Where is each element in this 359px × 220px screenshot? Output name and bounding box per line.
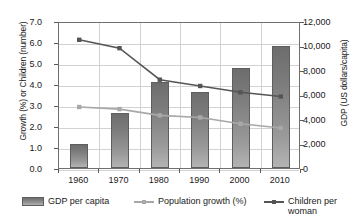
data-point-marker xyxy=(77,105,81,109)
y-axis-right-tickmark xyxy=(300,22,304,23)
data-point-marker xyxy=(198,115,202,119)
plot-area xyxy=(58,22,300,169)
line-marker-icon xyxy=(264,197,284,206)
y-axis-right-tickmark xyxy=(300,47,304,48)
x-axis-tickmark xyxy=(179,169,180,173)
legend-item-gdp-per-capita: GDP per capita xyxy=(22,196,109,206)
data-point-marker xyxy=(198,84,202,88)
line-children-per-woman xyxy=(79,40,281,97)
x-axis-tickmark xyxy=(139,169,140,173)
data-point-marker xyxy=(117,46,121,50)
y-axis-right-tickmark xyxy=(300,71,304,72)
legend-item-children-per-woman: Children per woman xyxy=(264,196,337,216)
legend-label-population-growth: Population growth (%) xyxy=(158,196,247,206)
y-axis-left-tickmark xyxy=(54,43,58,44)
data-point-marker xyxy=(117,107,121,111)
y-axis-right-tickmark xyxy=(300,145,304,146)
y-axis-left-tickmark xyxy=(54,127,58,128)
data-point-marker xyxy=(238,122,242,126)
y-axis-left-tickmark xyxy=(54,106,58,107)
x-axis-tickmark xyxy=(300,169,301,173)
chart-container: Growth (%) or Children (number) GDP (US … xyxy=(0,0,359,220)
x-axis-tick-label: 1960 xyxy=(58,175,98,185)
y-axis-right-tickmark xyxy=(300,96,304,97)
y-axis-left-tickmark xyxy=(54,148,58,149)
legend-label-children-per-woman: Children per woman xyxy=(288,196,337,216)
x-axis-tick-label: 2010 xyxy=(260,175,300,185)
legend-item-population-growth: Population growth (%) xyxy=(134,196,247,206)
x-axis-tick-label: 2000 xyxy=(220,175,260,185)
legend-label-gdp-per-capita: GDP per capita xyxy=(48,196,109,206)
x-axis-tick-label: 1990 xyxy=(179,175,219,185)
markers-children-per-woman xyxy=(77,38,283,99)
y-axis-left-tickmark xyxy=(54,85,58,86)
data-point-marker xyxy=(279,126,283,130)
x-axis-tick-label: 1970 xyxy=(99,175,139,185)
chart-legend: GDP per capita Population growth (%) Chi… xyxy=(22,196,352,220)
x-axis-tickmark xyxy=(98,169,99,173)
data-point-marker xyxy=(158,78,162,82)
line-population-growth xyxy=(79,107,281,128)
line-marker-icon xyxy=(134,197,154,206)
data-point-marker xyxy=(238,90,242,94)
data-point-marker xyxy=(279,94,283,98)
y-axis-left-tickmark xyxy=(54,22,58,23)
x-axis-tick-label: 1980 xyxy=(139,175,179,185)
y-axis-right-tickmark xyxy=(300,120,304,121)
line-series-layer xyxy=(59,23,301,170)
y-axis-left-tickmark xyxy=(54,64,58,65)
bar-swatch-icon xyxy=(22,197,44,206)
x-axis-tickmark xyxy=(58,169,59,173)
data-point-marker xyxy=(77,38,81,42)
data-point-marker xyxy=(158,113,162,117)
x-axis-tickmark xyxy=(219,169,220,173)
x-axis-tickmark xyxy=(260,169,261,173)
